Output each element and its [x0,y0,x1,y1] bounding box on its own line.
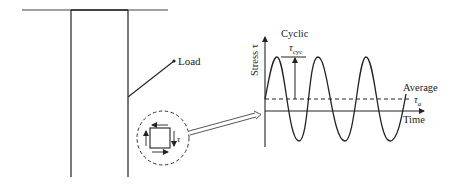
pile [71,10,128,177]
soil-element: τ [137,111,189,165]
graph-title: Cyclic [281,28,309,39]
pointer-arrow [189,111,261,135]
load-label: Load [178,55,201,67]
load-line [128,61,174,97]
tau-a-label: τa [414,94,422,108]
element-shear-label: τ [177,134,181,144]
average-label: Average [403,82,438,93]
y-axis-label: Stress τ [249,44,260,76]
tau-cyc-label: τcyc [289,42,302,56]
stress-time-graph [265,37,424,147]
cyclic-loading-diagram: Load τ Cyclic Stress τ τcyc Average τa [0,0,459,187]
x-axis-label: Time [403,114,425,125]
